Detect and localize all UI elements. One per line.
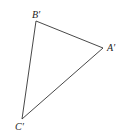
vertex-label-a-prime: A′	[107, 43, 115, 53]
triangle-diagram	[0, 0, 125, 135]
vertex-label-b-prime: B′	[32, 10, 40, 20]
triangle-a-b-c-prime	[22, 21, 103, 119]
vertex-label-c-prime: C′	[15, 122, 24, 132]
